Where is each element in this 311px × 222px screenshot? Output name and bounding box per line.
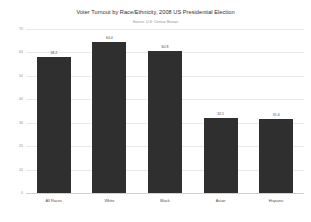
plot-area: 010203040506070 58.2All Races64.4White60… — [26, 29, 304, 193]
bar[interactable] — [204, 118, 238, 193]
bar-value-label: 31.6 — [273, 113, 280, 117]
y-axis-tick-label: 70 — [19, 27, 23, 31]
bar-group: 60.8Black — [137, 29, 193, 193]
x-axis-category-label: All Races — [46, 198, 62, 203]
bars-group: 58.2All Races64.4White60.8Black32.1Asian… — [26, 29, 304, 193]
chart-subtitle-source: Source: U.S. Census Bureau — [0, 20, 311, 24]
y-axis-tick-label: 60 — [19, 50, 23, 54]
bar-value-label: 64.4 — [106, 36, 113, 40]
bar-chart: Voter Turnout by Race/Ethnicity, 2008 US… — [0, 0, 311, 222]
bar[interactable] — [259, 119, 293, 193]
bar-group: 64.4White — [82, 29, 138, 193]
x-axis-category-label: White — [104, 198, 114, 203]
y-axis-tick-label: 10 — [19, 168, 23, 172]
y-axis-tick-label: 0 — [21, 191, 23, 195]
gridline: 0 — [26, 193, 304, 194]
bar-group: 31.6Hispanic — [248, 29, 304, 193]
chart-title: Voter Turnout by Race/Ethnicity, 2008 US… — [0, 9, 311, 15]
y-axis-tick-label: 30 — [19, 121, 23, 125]
bar-value-label: 58.2 — [50, 51, 57, 55]
bar[interactable] — [148, 51, 182, 193]
bar-group: 32.1Asian — [193, 29, 249, 193]
y-axis-tick-label: 40 — [19, 97, 23, 101]
y-axis-tick-label: 20 — [19, 144, 23, 148]
bar-value-label: 32.1 — [217, 112, 224, 116]
bar[interactable] — [37, 57, 71, 193]
y-axis-tick-label: 50 — [19, 74, 23, 78]
bar-value-label: 60.8 — [162, 45, 169, 49]
x-axis-category-label: Black — [160, 198, 170, 203]
x-axis-category-label: Asian — [216, 198, 226, 203]
bar-group: 58.2All Races — [26, 29, 82, 193]
bar[interactable] — [92, 42, 126, 193]
x-axis-category-label: Hispanic — [269, 198, 284, 203]
